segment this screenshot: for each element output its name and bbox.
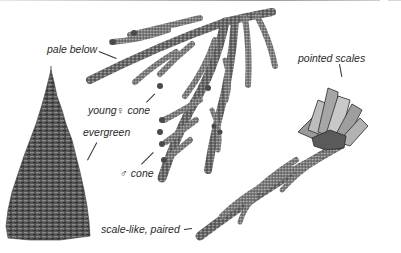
seed-cone-icon bbox=[298, 88, 368, 150]
label-scale-like-paired: scale-like, paired bbox=[101, 223, 180, 235]
label-male-cone: ♂ cone bbox=[120, 167, 154, 179]
botanical-illustration: pale below young♀ cone evergreen ♂ cone … bbox=[0, 0, 401, 253]
tree-icon bbox=[6, 66, 90, 240]
upper-branch-icon bbox=[90, 12, 275, 178]
label-pale-below: pale below bbox=[47, 43, 97, 55]
illustration-art bbox=[0, 0, 401, 253]
lower-branch-icon bbox=[200, 145, 340, 236]
label-evergreen: evergreen bbox=[83, 126, 130, 138]
label-pointed-scales: pointed scales bbox=[298, 52, 365, 64]
label-young-female-cone: young♀ cone bbox=[88, 104, 150, 116]
